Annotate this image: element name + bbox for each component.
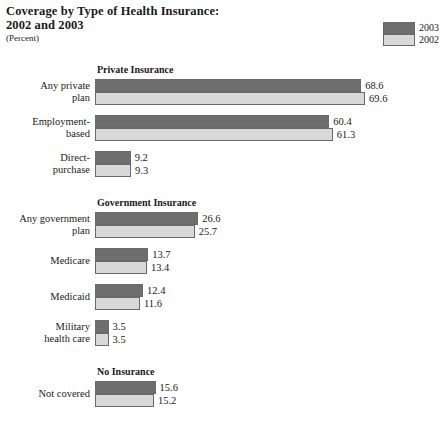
bar-group: Employment-based60.461.3 bbox=[0, 115, 445, 141]
bar-2003[interactable] bbox=[95, 151, 131, 164]
bar-group-label-line-2: based bbox=[0, 128, 90, 140]
bar-value-label: 13.4 bbox=[151, 261, 169, 274]
bar-value-label: 9.3 bbox=[135, 164, 148, 177]
bar-group: Medicare13.713.4 bbox=[0, 248, 445, 274]
bar-value-label: 15.2 bbox=[158, 394, 176, 407]
bar-group: Militaryhealth care3.53.5 bbox=[0, 320, 445, 346]
bar-group-label-line-1: Medicare bbox=[0, 255, 90, 267]
bar-group: Medicaid12.411.6 bbox=[0, 284, 445, 310]
bar-2002[interactable] bbox=[95, 92, 365, 105]
bar-2002[interactable] bbox=[95, 261, 147, 274]
bar-group-label-line-1: Any government bbox=[0, 213, 90, 225]
bar-2003[interactable] bbox=[95, 381, 156, 394]
bar-chart-plot: Private InsuranceAny privateplan68.669.6… bbox=[0, 0, 445, 425]
bar-group-label: Medicaid bbox=[0, 291, 90, 303]
bar-group-label-line-2: plan bbox=[0, 92, 90, 104]
bar-group-label-line-1: Military bbox=[0, 321, 90, 333]
bar-group: Any privateplan68.669.6 bbox=[0, 79, 445, 105]
bar-2003[interactable] bbox=[95, 284, 143, 297]
bar-group-label-line-1: Employment- bbox=[0, 116, 90, 128]
bar-group-label-line-2: health care bbox=[0, 333, 90, 345]
bar-2003[interactable] bbox=[95, 212, 198, 225]
bar-group-label: Direct-purchase bbox=[0, 152, 90, 175]
bar-2003[interactable] bbox=[95, 320, 109, 333]
bar-value-label: 25.7 bbox=[199, 225, 217, 238]
bar-2002[interactable] bbox=[95, 128, 333, 141]
section-heading: Government Insurance bbox=[97, 197, 196, 208]
bar-group-label: Militaryhealth care bbox=[0, 321, 90, 344]
bar-group-label: Any governmentplan bbox=[0, 213, 90, 236]
bar-group-label: Employment-based bbox=[0, 116, 90, 139]
bar-2002[interactable] bbox=[95, 394, 154, 407]
bar-value-label: 3.5 bbox=[113, 320, 126, 333]
section-heading: No Insurance bbox=[97, 366, 155, 377]
bar-value-label: 26.6 bbox=[202, 212, 220, 225]
bar-group-label-line-1: Medicaid bbox=[0, 291, 90, 303]
bar-group-label-line-1: Any private bbox=[0, 80, 90, 92]
bar-value-label: 61.3 bbox=[337, 128, 355, 141]
bar-group: Any governmentplan26.625.7 bbox=[0, 212, 445, 238]
bar-group-label-line-1: Not covered bbox=[0, 388, 90, 400]
bar-2002[interactable] bbox=[95, 297, 140, 310]
bar-group-label: Any privateplan bbox=[0, 80, 90, 103]
bar-group-label-line-2: plan bbox=[0, 225, 90, 237]
bar-value-label: 13.7 bbox=[152, 248, 170, 261]
bar-value-label: 3.5 bbox=[113, 333, 126, 346]
bar-value-label: 12.4 bbox=[147, 284, 165, 297]
bar-group-label-line-2: purchase bbox=[0, 164, 90, 176]
bar-2003[interactable] bbox=[95, 248, 148, 261]
bar-value-label: 68.6 bbox=[365, 79, 383, 92]
bar-group: Not covered15.615.2 bbox=[0, 381, 445, 407]
bar-2003[interactable] bbox=[95, 115, 329, 128]
bar-2003[interactable] bbox=[95, 79, 361, 92]
bar-value-label: 69.6 bbox=[369, 92, 387, 105]
bar-value-label: 9.2 bbox=[135, 151, 148, 164]
bar-value-label: 60.4 bbox=[333, 115, 351, 128]
bar-2002[interactable] bbox=[95, 333, 109, 346]
bar-value-label: 15.6 bbox=[160, 381, 178, 394]
bar-group: Direct-purchase9.29.3 bbox=[0, 151, 445, 177]
bar-2002[interactable] bbox=[95, 225, 195, 238]
bar-group-label: Not covered bbox=[0, 388, 90, 400]
bar-group-label-line-1: Direct- bbox=[0, 152, 90, 164]
section-heading: Private Insurance bbox=[97, 64, 173, 75]
bar-2002[interactable] bbox=[95, 164, 131, 177]
bar-value-label: 11.6 bbox=[144, 297, 162, 310]
bar-group-label: Medicare bbox=[0, 255, 90, 267]
